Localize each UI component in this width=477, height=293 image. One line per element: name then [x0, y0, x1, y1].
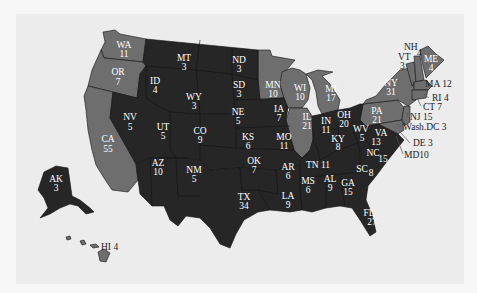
label-ks-votes: 6 [246, 141, 251, 151]
label-wi-votes: 10 [295, 92, 305, 102]
label-il-votes: 21 [302, 121, 312, 131]
label-de: DE 3 [413, 138, 433, 148]
label-fl-votes: 27 [367, 217, 377, 227]
label-la-votes: 9 [286, 200, 291, 210]
label-az-votes: 10 [153, 167, 163, 177]
label-mt-votes: 3 [182, 62, 187, 72]
label-mi-votes: 17 [326, 93, 336, 103]
label-or-name: OR [111, 67, 125, 77]
label-ga-votes: 15 [343, 187, 353, 197]
label-sc-votes: 8 [369, 168, 374, 178]
label-nc-votes: 15 [378, 154, 388, 164]
label-ny-votes: 31 [386, 87, 396, 97]
label-md: MD10 [404, 150, 429, 160]
label-mn-votes: 10 [268, 89, 278, 99]
label-id-votes: 4 [153, 85, 158, 95]
label-ok-votes: 7 [252, 165, 257, 175]
label-ia-votes: 7 [277, 113, 282, 123]
label-ca-name: CA [101, 134, 114, 144]
label-wy-votes: 3 [192, 101, 197, 111]
label-va-votes: 13 [371, 137, 381, 147]
label-nh-votes: 4 [417, 48, 422, 58]
label-or-votes: 7 [116, 77, 121, 87]
label-ca-votes: 55 [103, 144, 113, 154]
label-co-votes: 9 [198, 135, 203, 145]
label-nm-votes: 5 [192, 174, 197, 184]
label-vt-votes: 3 [400, 61, 405, 71]
label-wv-votes: 5 [360, 133, 365, 143]
label-me-votes: 4 [429, 63, 434, 73]
label-dc: Wash.DC 3 [403, 122, 447, 132]
label-nj: NJ 15 [410, 112, 433, 122]
label-wa-votes: 11 [119, 49, 128, 59]
label-nv-votes: 5 [128, 122, 133, 132]
us-electoral-map: WA 11 OR 7 CA 55 NV 5 ID 4 MT 3 WY 3 UT … [0, 0, 477, 293]
label-tn: TN 11 [306, 160, 330, 170]
label-pa-votes: 21 [372, 115, 382, 125]
label-al-votes: 9 [328, 183, 333, 193]
label-oh-votes: 20 [339, 119, 349, 129]
label-ma: MA 12 [425, 79, 452, 89]
label-nh-name: NH [404, 42, 418, 52]
label-ne-votes: 5 [236, 116, 241, 126]
label-hi: HI 4 [101, 242, 118, 252]
label-tx-votes: 34 [239, 201, 249, 211]
label-ky-votes: 8 [336, 142, 341, 152]
label-ms-votes: 6 [306, 185, 311, 195]
label-nd-votes: 3 [237, 64, 242, 74]
label-mo-votes: 11 [279, 141, 288, 151]
label-sc-name: SC [356, 164, 368, 174]
label-nv-name: NV [123, 112, 137, 122]
label-ct: CT 7 [423, 102, 442, 112]
label-ak-votes: 3 [54, 183, 59, 193]
label-sd-votes: 3 [237, 89, 242, 99]
label-ar-votes: 6 [286, 171, 291, 181]
label-in-votes: 11 [321, 125, 330, 135]
label-ut-votes: 5 [161, 131, 166, 141]
state-ak[interactable] [38, 166, 94, 218]
